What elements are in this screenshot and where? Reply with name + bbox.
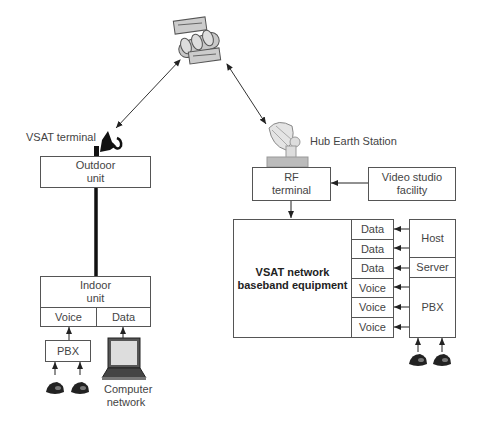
- hub-port-voice-2: Voice: [351, 297, 394, 318]
- sat-hub-link: [227, 64, 266, 124]
- hub-port-data-2: Data: [351, 239, 394, 259]
- hub-earth-station-label: Hub Earth Station: [310, 135, 397, 148]
- host-box: Host: [409, 219, 456, 258]
- baseband-equipment-box: VSAT network baseband equipment: [233, 219, 352, 338]
- indoor-data-port: Data: [96, 307, 151, 327]
- hub-port-data-3: Data: [351, 258, 394, 279]
- hub-port-voice-1: Voice: [351, 278, 394, 298]
- vsat-phone-icon-2: [71, 382, 89, 394]
- laptop-icon: [102, 338, 146, 380]
- vsat-pbx-box: PBX: [45, 340, 91, 362]
- satellite-icon: [173, 17, 221, 64]
- computer-network-label: Computer network: [104, 383, 148, 409]
- server-box: Server: [409, 257, 456, 278]
- hub-dish-icon: [267, 122, 308, 167]
- vsat-dish-icon: [94, 131, 121, 156]
- vsat-phone-icon-1: [46, 382, 64, 394]
- video-studio-box: Video studio facility: [368, 167, 456, 201]
- vsat-terminal-label: VSAT terminal: [26, 131, 96, 144]
- indoor-unit-box: Indoor unit: [40, 276, 151, 308]
- rf-terminal-box: RF terminal: [252, 167, 331, 201]
- hub-phone-icon-2: [433, 354, 451, 366]
- hub-port-voice-3: Voice: [351, 317, 394, 338]
- hub-phone-icon-1: [409, 354, 427, 366]
- outdoor-unit-box: Outdoor unit: [40, 156, 151, 188]
- port-arrows: [394, 229, 409, 327]
- hub-port-data-1: Data: [351, 219, 394, 240]
- indoor-voice-port: Voice: [40, 307, 97, 327]
- sat-vsat-link: [116, 60, 180, 128]
- hub-pbx-box: PBX: [409, 277, 456, 338]
